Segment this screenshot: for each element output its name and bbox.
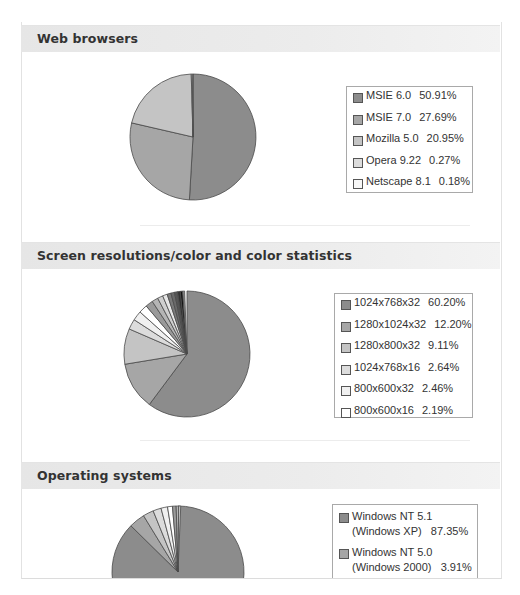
legend-swatch [339,549,349,559]
legend-item: 800x600x32 2.46% [335,382,472,404]
legend-swatch [341,365,351,375]
legend-swatch [341,343,351,353]
legend-item: MSIE 6.0 50.91% [347,89,472,111]
legend-swatch [353,93,363,103]
legend-item: 1280x1024x32 12.20% [335,318,472,340]
legend-operating-systems: Windows NT 5.1 (Windows XP) 87.35% Windo… [332,504,478,578]
pie-slice [189,74,256,200]
legend-screen-resolutions: 1024x768x32 60.20% 1280x1024x32 12.20% 1… [334,293,473,418]
legend-swatch [339,513,349,523]
legend-item: 1024x768x16 2.64% [335,361,472,383]
legend-swatch [341,408,351,418]
legend-web-browsers: MSIE 6.0 50.91% MSIE 7.0 27.69% Mozilla … [346,86,473,193]
legend-swatch [353,158,363,168]
legend-swatch [341,386,351,396]
pie-chart-screen-resolutions [124,291,250,417]
legend-swatch [341,322,351,332]
legend-item: MSIE 7.0 27.69% [347,111,472,133]
legend-swatch [341,300,351,310]
pie-chart-operating-systems [112,506,244,578]
legend-item: Netscape 8.1 0.18% [347,175,472,197]
legend-item: 1280x800x32 9.11% [335,339,472,361]
legend-item: 800x600x16 2.19% [335,404,472,426]
pie-chart-web-browsers [130,74,256,200]
legend-item: Mozilla 5.0 20.95% [347,132,472,154]
legend-item: 1024x768x32 60.20% [335,296,472,318]
legend-item: Windows NT 5.0 (Windows 2000) 3.91% [333,545,477,578]
legend-item: Windows NT 5.1 (Windows XP) 87.35% [333,509,477,545]
legend-swatch [353,115,363,125]
legend-item: Opera 9.22 0.27% [347,154,472,176]
legend-swatch [353,136,363,146]
legend-swatch [353,179,363,189]
